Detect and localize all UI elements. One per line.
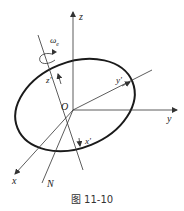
n-line [42,110,73,183]
y-axis-label: y [167,114,171,124]
omega-label: ωe [50,36,59,47]
y-prime-arrow [122,82,130,86]
z-prime-arrow [58,74,61,84]
figure-caption: 图 11-10 [0,191,184,206]
y-prime-axis [73,70,152,110]
rotation-diagram [0,0,184,211]
rotation-arrowhead-icon [52,49,57,55]
x-axis [15,110,73,174]
n-label: N [47,179,54,189]
origin-label: O [61,102,68,112]
z-prime-label: z' [46,76,51,85]
x-prime-label: x' [85,137,91,146]
disk-ellipse [1,42,148,168]
z-axis-label: z [79,12,83,22]
x-prime-arrow [79,138,80,146]
omega-subscript: e [56,41,59,47]
x-axis-label: x [12,176,16,186]
y-prime-label: y' [116,76,122,85]
